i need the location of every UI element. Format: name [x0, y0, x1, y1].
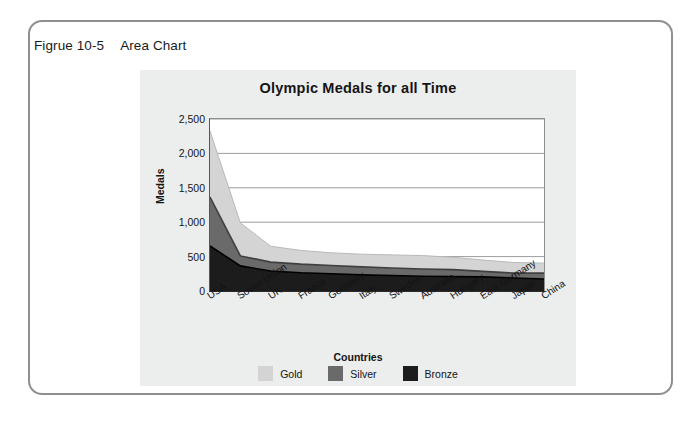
area-chart-svg [210, 119, 544, 291]
figure-caption-text: Area Chart [120, 38, 186, 53]
legend-item-gold: Gold [258, 366, 302, 381]
y-axis-tick-label: 500 [187, 251, 205, 263]
chart-panel: Olympic Medals for all Time Medals 05001… [140, 70, 576, 386]
legend-label-bronze: Bronze [425, 368, 458, 380]
plot-area: 05001,0001,5002,0002,500 [209, 118, 545, 292]
y-axis-title: Medals [154, 168, 166, 204]
x-axis-title: Countries [140, 351, 576, 363]
legend-item-bronze: Bronze [403, 366, 458, 381]
y-axis-tick-label: 2,000 [179, 147, 205, 159]
legend-label-silver: Silver [350, 368, 376, 380]
legend-swatch-bronze [403, 366, 418, 381]
legend-swatch-silver [328, 366, 343, 381]
legend-swatch-gold [258, 366, 273, 381]
y-axis-tick-label: 1,500 [179, 182, 205, 194]
figure-caption: Figrue 10-5Area Chart [34, 38, 186, 53]
chart-legend: GoldSilverBronze [140, 366, 576, 381]
y-axis-tick-label: 2,500 [179, 113, 205, 125]
legend-item-silver: Silver [328, 366, 376, 381]
chart-title: Olympic Medals for all Time [140, 80, 576, 96]
legend-label-gold: Gold [280, 368, 302, 380]
x-axis-tick-labels: USASoviet UnionUKFranceGermanyItalySwede… [209, 292, 543, 348]
y-axis-tick-label: 1,000 [179, 216, 205, 228]
figure-number: Figrue 10-5 [34, 38, 104, 53]
